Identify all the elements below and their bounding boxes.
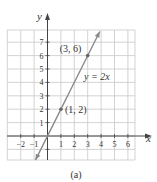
y-tick-label: 2 (40, 105, 44, 114)
x-tick-label: 5 (113, 140, 117, 149)
data-point (59, 107, 63, 111)
y-tick-label: 7 (40, 38, 44, 47)
y-tick-label: 4 (40, 78, 44, 87)
point-label: (1, 2) (65, 104, 87, 116)
data-point (86, 54, 90, 58)
x-tick-label: 6 (126, 140, 130, 149)
x-tick-label: −2 (16, 140, 25, 149)
x-tick-label: 1 (59, 140, 63, 149)
x-tick-label: 4 (99, 140, 103, 149)
y-tick-label: 3 (40, 92, 44, 101)
x-tick-label: −1 (30, 140, 39, 149)
equation-label: y = 2x (83, 71, 110, 82)
y-tick-label: 5 (40, 65, 44, 74)
y-tick-label: 6 (40, 52, 44, 61)
x-tick-label: 3 (86, 140, 90, 149)
figure-caption: (a) (70, 169, 81, 181)
axes (7, 13, 152, 160)
y-axis-label: y (36, 10, 42, 22)
x-axis-label: x (145, 132, 151, 144)
y-tick-label: 1 (40, 119, 44, 128)
y-axis-arrow-icon (45, 13, 50, 20)
coordinate-plane-chart: −2−11234561234567 (1, 2)(3, 6) y x y = 2… (0, 0, 157, 182)
x-tick-label: 2 (72, 140, 76, 149)
point-label: (3, 6) (60, 43, 82, 55)
tick-labels: −2−11234561234567 (16, 38, 129, 149)
